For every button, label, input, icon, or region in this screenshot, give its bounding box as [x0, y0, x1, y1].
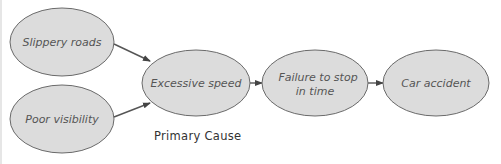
node-label: Excessive speed — [151, 77, 243, 90]
node-failure-to-stop: Failure to stop in time — [262, 50, 368, 116]
node-label: Poor visibility — [25, 113, 99, 126]
node-slippery-roads: Slippery roads — [10, 8, 114, 76]
node-label: Slippery roads — [22, 36, 101, 49]
node-excessive-speed: Excessive speed — [142, 50, 250, 116]
edge-slippery-to-speed — [114, 44, 150, 61]
node-label-line2: in time — [296, 85, 335, 98]
node-label-line1: Failure to stop — [278, 71, 357, 84]
node-poor-visibility: Poor visibility — [10, 85, 114, 153]
cause-effect-diagram: Slippery roads Poor visibility Excessive… — [0, 0, 501, 164]
node-car-accident: Car accident — [383, 50, 489, 116]
primary-cause-caption: Primary Cause — [154, 129, 241, 143]
node-label: Car accident — [401, 77, 471, 90]
edge-visibility-to-speed — [114, 103, 150, 117]
